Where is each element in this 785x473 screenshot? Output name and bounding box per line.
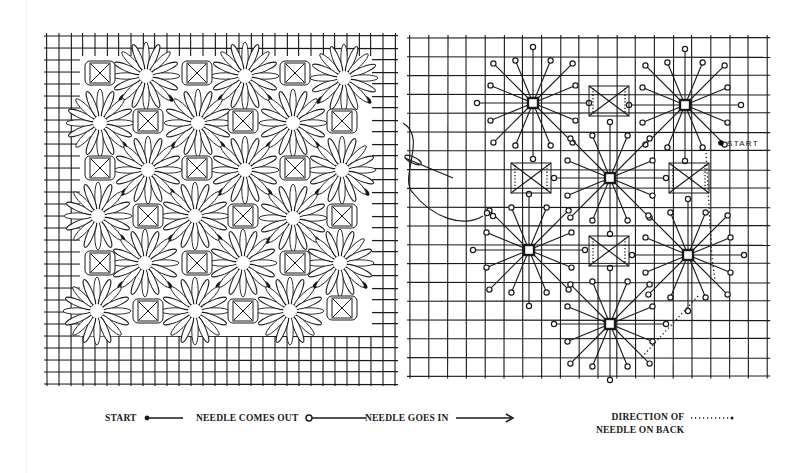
open-circle-icon [304,413,368,423]
cross-stitch-square [133,204,163,228]
needle-out-icon [488,118,493,123]
needle-out-icon [668,210,673,215]
needle-out-icon [565,304,570,309]
needle-out-icon [663,175,668,180]
legend-start: START [105,413,185,423]
legend-needle-out: NEEDLE COMES OUT [196,413,368,423]
needle-out-icon [569,265,574,270]
cross-stitch-square [280,251,310,275]
star-eyelet-lower-left [470,191,587,308]
needle-out-icon [625,279,630,284]
legend-direction-line1: DIRECTION OF [596,411,684,424]
cross-stitch-diagram [589,236,629,266]
cross-stitch-square [327,204,357,228]
finished-pattern-panel [40,28,402,388]
legend-direction-line2: NEEDLE ON BACK [596,424,684,437]
cross-stitch-square [85,251,115,275]
needle-out-icon [491,140,496,145]
needle-out-icon [470,247,475,252]
needle-out-icon [629,252,634,257]
needle-out-icon [590,218,595,223]
needle-out-icon [650,304,655,309]
star-eyelet-bottom [551,265,668,382]
needle-out-icon [625,364,630,369]
needle-out-icon [569,230,574,235]
needle-out-icon [544,290,549,295]
daisy-stitch-flower [161,277,229,345]
needle-out-icon [573,118,578,123]
needle-out-icon [568,361,573,366]
needle-out-icon [665,60,670,65]
dotted-line-icon [690,414,736,422]
cross-stitch-square [182,61,212,85]
star-eyelet-lower-right [629,196,746,313]
cross-stitch-square [182,251,212,275]
needle-out-icon [607,119,612,124]
needle-out-icon [650,158,655,163]
needle-out-icon [530,156,535,161]
daisy-stitch-flower [310,44,378,112]
cross-stitch-square [327,296,357,320]
needle-out-icon [590,133,595,138]
needle-out-icon [484,230,489,235]
needle-out-icon [643,235,648,240]
needle-out-icon [665,145,670,150]
cross-stitch-square [133,109,163,133]
page-edge [26,0,27,473]
needle-out-icon [474,100,479,105]
needle-eye-icon [404,153,423,166]
start-dot-icon [718,140,724,146]
needle-out-icon [725,120,730,125]
needle-out-icon [526,303,531,308]
needle-out-icon [566,208,571,213]
needle-out-icon [663,321,668,326]
needle-out-icon [640,120,645,125]
needle-out-icon [700,145,705,150]
needle-out-icon [513,143,518,148]
start-label: START [727,139,759,148]
cross-stitch-square [133,299,163,323]
cross-stitch-square [228,109,258,133]
needle-out-icon [568,136,573,141]
needle-out-icon [566,287,571,292]
needle-out-icon [725,213,730,218]
needle-out-icon [484,265,489,270]
stitch-diagram-drawing: START [403,28,775,388]
needle-out-icon [725,85,730,90]
daisy-stitch-flower [308,136,376,204]
needle-out-icon [741,252,746,257]
start-dot-icon [143,414,185,422]
needle-out-icon [703,210,708,215]
needle-out-icon [565,193,570,198]
needle-out-icon [682,46,687,51]
cross-stitch-square [85,61,115,85]
needle-out-icon [570,61,575,66]
needle-out-icon [668,295,673,300]
needle-out-icon [582,247,587,252]
needle-out-icon [530,44,535,49]
daisy-stitch-flower [256,277,324,345]
needle-out-icon [551,321,556,326]
star-eyelet-upper-left [474,44,591,161]
cross-stitch-square [85,156,115,180]
needle-out-icon [728,270,733,275]
thread [403,123,483,221]
needle-out-icon [650,339,655,344]
needle-out-icon [738,102,743,107]
needle-out-icon [647,136,652,141]
needle-out-icon [590,279,595,284]
legend-needle-out-label: NEEDLE COMES OUT [196,413,298,423]
needle-out-icon [513,58,518,63]
needle-out-icon [509,290,514,295]
needle-out-icon [487,287,492,292]
needle-out-icon [548,58,553,63]
legend-needle-in-label: NEEDLE GOES IN [365,413,449,423]
cross-stitch-square [228,204,258,228]
daisy-stitch-flower [63,277,131,345]
needle-out-icon [551,175,556,180]
finished-pattern-drawing [40,28,402,388]
needle-out-icon [568,282,573,287]
needle-out-icon [491,61,496,66]
needle-out-icon [646,213,651,218]
needle-out-icon [647,361,652,366]
